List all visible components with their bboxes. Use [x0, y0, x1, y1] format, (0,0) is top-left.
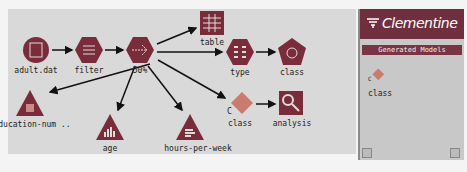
generated-model-icon: C — [225, 89, 255, 119]
clementine-logo-icon — [366, 16, 380, 30]
table-node[interactable] — [199, 10, 225, 36]
sample-icon — [125, 35, 155, 65]
generated-model-icon: C — [368, 67, 390, 89]
node-label: class — [228, 119, 252, 128]
sample-node[interactable] — [125, 35, 155, 65]
analysis-icon — [278, 90, 304, 116]
brand-name: Clementine — [382, 15, 457, 31]
node-label: type — [230, 68, 249, 77]
table-icon — [199, 10, 225, 36]
education-num-histogram-node[interactable] — [15, 88, 45, 118]
node-label: hours-per-week — [164, 144, 231, 153]
clementine-brand-header: Clementine — [360, 9, 464, 39]
node-label: age — [103, 144, 117, 153]
adult-dat-source-node[interactable] — [21, 35, 51, 65]
node-label: 50% — [133, 66, 147, 75]
filter-node[interactable] — [74, 35, 104, 65]
histogram-icon — [15, 88, 45, 118]
node-label: table — [200, 38, 224, 47]
histogram-icon — [95, 112, 125, 142]
file-source-icon — [21, 35, 51, 65]
svg-text:C: C — [227, 107, 232, 116]
svg-text:C: C — [368, 76, 372, 82]
generated-models-tab[interactable]: Generated Models — [362, 45, 462, 55]
node-label: filter — [75, 66, 104, 75]
analysis-node[interactable] — [278, 90, 304, 116]
age-histogram-node[interactable] — [95, 112, 125, 142]
class-generated-model-node[interactable]: C — [225, 89, 255, 119]
filter-icon — [74, 35, 104, 65]
class-model-node[interactable] — [277, 37, 307, 67]
scroll-left-button[interactable] — [362, 148, 372, 158]
model-label: class — [368, 89, 392, 98]
type-icon — [225, 37, 255, 67]
managers-panel: Clementine Generated Models C class — [358, 9, 464, 160]
hours-per-week-histogram-node[interactable] — [175, 112, 205, 142]
node-label: education-num .. — [0, 120, 71, 129]
node-label: class — [280, 68, 304, 77]
node-label: adult.dat — [14, 66, 57, 75]
histogram-icon — [175, 112, 205, 142]
scroll-right-button[interactable] — [450, 148, 460, 158]
generated-model-item[interactable]: C class — [368, 67, 398, 97]
type-node[interactable] — [225, 37, 255, 67]
modeling-icon — [277, 37, 307, 67]
node-label: analysis — [273, 119, 312, 128]
